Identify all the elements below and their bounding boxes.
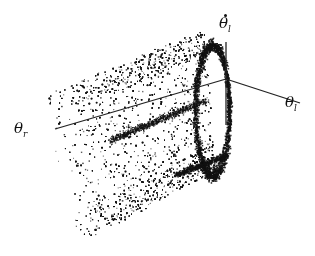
point-cloud-plot: [0, 0, 315, 256]
axis-label-theta-l: θl: [285, 95, 297, 113]
theta-l-dot-dot-accent: [224, 14, 227, 17]
theta-r-symbol: θ: [14, 119, 23, 137]
theta-l-dot-symbol: θ: [219, 14, 228, 32]
theta-l-symbol: θ: [285, 93, 294, 111]
theta-l-dot-subscript: l: [228, 24, 231, 34]
axis-label-theta-l-dot: θl: [219, 16, 231, 34]
theta-r-subscript: r: [23, 129, 27, 139]
axis-label-theta-r: θr: [14, 121, 27, 139]
theta-l-subscript: l: [294, 103, 297, 113]
